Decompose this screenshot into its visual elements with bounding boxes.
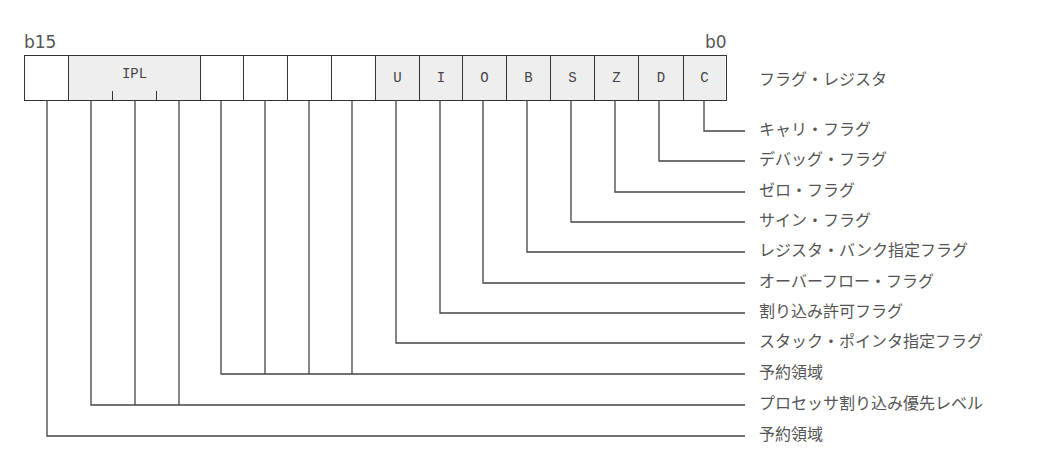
description-debug-flag: デバッグ・フラグ	[759, 151, 887, 169]
description-ipl: プロセッサ割り込み優先レベル	[759, 395, 983, 413]
description-reserved-b11-b8: 予約領域	[759, 364, 823, 382]
description-sign-flag: サイン・フラグ	[759, 212, 871, 230]
description-reserved-b15: 予約領域	[759, 426, 823, 444]
description-overflow-flag: オーバーフロー・フラグ	[759, 273, 934, 291]
description-carry-flag: キャリ・フラグ	[759, 121, 871, 139]
description-zero-flag: ゼロ・フラグ	[759, 182, 855, 200]
description-register-bank-flag: レジスタ・バンク指定フラグ	[759, 242, 968, 260]
description-stack-pointer-flag: スタック・ポインタ指定フラグ	[759, 333, 983, 351]
description-interrupt-enable-flag: 割り込み許可フラグ	[759, 303, 903, 321]
